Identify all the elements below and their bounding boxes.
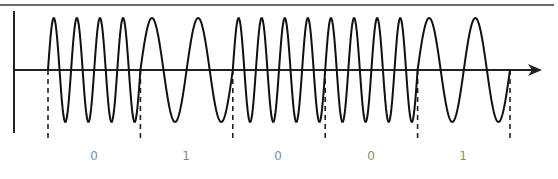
bit-label: 1 [453,149,473,163]
fsk-waveform [48,18,510,122]
bit-label: 0 [268,149,288,163]
bit-label: 0 [84,149,104,163]
bit-label: 1 [176,149,196,163]
bit-label: 0 [361,149,381,163]
